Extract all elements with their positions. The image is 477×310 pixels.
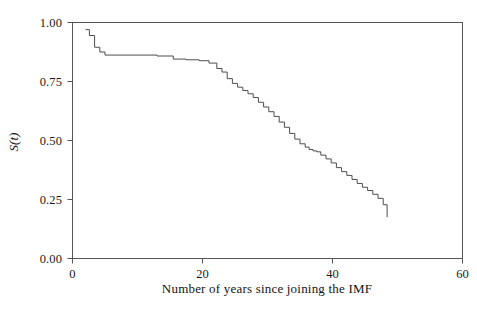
x-tick-label: 60 [456,267,469,282]
data-series-group [86,30,388,218]
axes-frame [73,23,463,259]
x-axis-title: Number of years since joining the IMF [162,281,372,297]
plot-canvas [0,0,477,310]
y-tick-label: 0.25 [10,192,62,207]
y-axis-title: S(t) [6,133,22,152]
plot-frame [73,23,463,259]
y-tick-label: 0.00 [10,251,62,266]
y-tick-label: 1.00 [10,15,62,30]
x-tick-label: 0 [69,267,75,282]
x-tick-label: 20 [196,267,209,282]
survival-step-line [86,30,388,218]
survival-chart-figure: 0.000.250.500.751.00 0204060 Number of y… [0,0,477,310]
x-tick-label: 40 [326,267,339,282]
y-axis-ticks [68,23,73,259]
x-axis-ticks [73,259,463,264]
y-tick-label: 0.75 [10,74,62,89]
